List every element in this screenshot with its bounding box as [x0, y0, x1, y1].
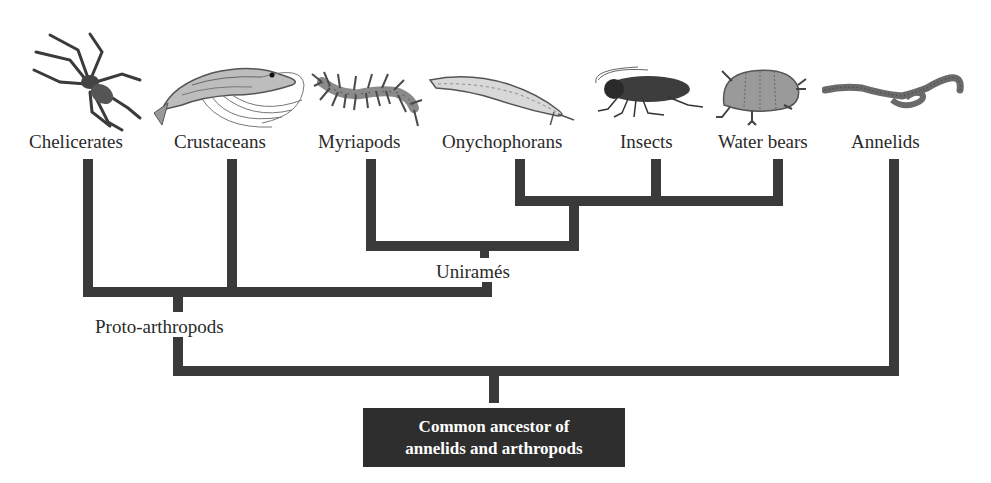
taxon-label-annelids: Annelids — [851, 132, 920, 151]
velvet-worm-icon — [428, 70, 578, 125]
taxon-label-crustaceans: Crustaceans — [174, 132, 266, 151]
root-ancestor-line1: Common ancestor of — [363, 416, 625, 438]
branch-root-horizontal — [173, 366, 899, 376]
taxon-label-insects: Insects — [620, 132, 673, 151]
branch-uniramia-horizontal — [366, 241, 579, 251]
branch-annelids — [889, 159, 899, 376]
root-ancestor-box: Common ancestor of annelids and arthropo… — [363, 408, 625, 467]
shrimp-icon — [152, 55, 307, 130]
centipede-icon — [310, 62, 428, 128]
taxon-label-onychophorans: Onychophorans — [442, 132, 562, 151]
taxon-label-chelicerates: Chelicerates — [29, 132, 123, 151]
cockroach-icon — [588, 65, 703, 120]
taxon-label-water-bears: Water bears — [718, 132, 808, 151]
tardigrade-icon — [712, 65, 807, 127]
spider-icon — [30, 30, 145, 132]
branch-proto-arthropods-horizontal — [83, 287, 492, 297]
branch-onycho-clade-connector — [569, 206, 579, 251]
node-label-uniramia: Uniramés — [436, 262, 510, 281]
branch-uniramia-stub-lower — [482, 282, 492, 297]
branch-root-stub — [489, 376, 499, 403]
earthworm-icon — [822, 70, 967, 115]
branch-chelicerates — [83, 159, 93, 297]
root-ancestor-line2: annelids and arthropods — [363, 438, 625, 460]
branch-myriapods — [366, 159, 376, 251]
node-label-proto-arthropods: Proto-arthropods — [95, 317, 224, 336]
taxon-label-myriapods: Myriapods — [318, 132, 400, 151]
branch-onycho-insects-waterbears-horizontal — [515, 196, 783, 206]
branch-proto-arthropods-stub-upper — [173, 297, 183, 312]
branch-crustaceans — [227, 159, 237, 297]
branch-uniramia-stub-upper — [480, 251, 489, 258]
